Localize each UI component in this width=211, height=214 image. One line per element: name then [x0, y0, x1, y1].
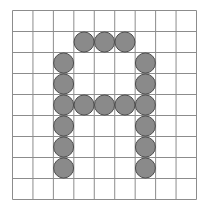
- dot: [115, 95, 135, 115]
- dot: [135, 74, 155, 94]
- dot: [95, 95, 115, 115]
- dot: [54, 74, 74, 94]
- dot: [115, 32, 135, 52]
- dot: [54, 116, 74, 136]
- dot: [135, 53, 155, 73]
- dot: [135, 95, 155, 115]
- dot: [54, 53, 74, 73]
- dot-matrix-grid: [12, 10, 198, 202]
- dot: [54, 95, 74, 115]
- dot: [95, 32, 115, 52]
- dot: [54, 158, 74, 178]
- dot: [135, 158, 155, 178]
- dot: [74, 95, 94, 115]
- dot: [54, 137, 74, 157]
- dot: [74, 32, 94, 52]
- dot: [135, 137, 155, 157]
- dot: [135, 116, 155, 136]
- letter-a-dots: [54, 32, 156, 178]
